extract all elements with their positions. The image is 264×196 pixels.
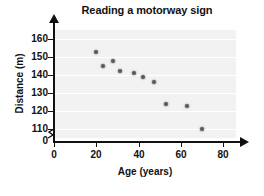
y-axis-break-icon: [47, 126, 59, 138]
y-axis-tick: [48, 75, 53, 76]
x-axis-tick-label: 0: [42, 150, 66, 160]
x-axis-tick-label: 80: [211, 150, 235, 160]
x-axis-arrow-icon: [240, 137, 249, 147]
chart-title: Reading a motorway sign: [52, 4, 242, 17]
y-axis-arrow-icon: [49, 14, 59, 23]
plot-area: [54, 30, 236, 138]
data-point: [118, 69, 122, 73]
y-axis-tick: [48, 93, 53, 94]
x-axis-tick: [96, 143, 97, 147]
data-point: [152, 80, 156, 84]
y-axis-tick: [48, 57, 53, 58]
gridline: [54, 39, 236, 40]
y-axis-line: [53, 22, 55, 142]
y-axis-title: Distance (m): [14, 29, 25, 139]
x-axis-tick-label: 60: [169, 150, 193, 160]
gridline: [54, 57, 236, 58]
x-axis-tick: [139, 143, 140, 147]
x-axis-tick-label: 20: [84, 150, 108, 160]
x-axis-line: [53, 141, 241, 143]
gridline: [54, 75, 236, 76]
data-point: [200, 127, 204, 131]
y-axis-tick: [48, 39, 53, 40]
y-axis-tick: [48, 111, 53, 112]
x-axis-tick-label: 40: [127, 150, 151, 160]
scatter-chart-figure: Reading a motorway sign 1101201301401501…: [0, 0, 264, 196]
data-point: [101, 64, 105, 68]
gridline: [54, 93, 236, 94]
data-point: [94, 50, 98, 54]
data-point: [185, 104, 189, 108]
x-axis-tick: [54, 143, 55, 147]
x-axis-tick: [181, 143, 182, 147]
data-point: [164, 102, 168, 106]
gridline: [54, 129, 236, 130]
data-point: [111, 59, 115, 63]
data-point: [141, 75, 145, 79]
y-axis-tick: [48, 129, 53, 130]
x-axis-tick: [223, 143, 224, 147]
gridline: [54, 111, 236, 112]
x-axis-title: Age (years): [54, 166, 236, 177]
